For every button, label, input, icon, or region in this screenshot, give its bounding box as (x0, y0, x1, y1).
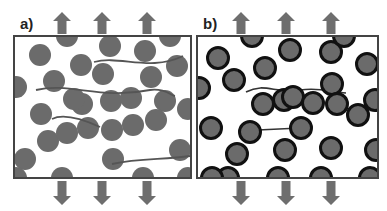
filler-particle-with-shell (283, 87, 304, 108)
filler-particle (140, 66, 162, 88)
arrow-up-icon (322, 12, 340, 34)
filler-particle (56, 122, 78, 144)
filler-particle (154, 90, 176, 112)
filler-particle-with-shell (255, 58, 276, 79)
filler-particle (122, 114, 144, 136)
filler-particle-with-shell (253, 94, 274, 115)
filler-particle (14, 148, 36, 170)
panel-a: a) (5, 12, 199, 205)
panel-b-arrows-down (232, 181, 340, 205)
panel-a-arrows-down (53, 181, 156, 205)
arrow-up-icon (93, 12, 111, 34)
arrow-down-icon (93, 181, 111, 205)
filler-particle-with-shell (275, 140, 296, 161)
filler-particle-with-shell (348, 105, 369, 126)
filler-particle-with-shell (365, 90, 386, 111)
arrow-down-icon (322, 181, 340, 205)
panel-b: b) (189, 12, 387, 205)
arrow-down-icon (277, 181, 295, 205)
arrow-up-icon (277, 12, 295, 34)
filler-particle (102, 148, 124, 170)
filler-particle-with-shell (208, 48, 229, 69)
arrow-up-icon (53, 12, 71, 34)
filler-particle-with-shell (322, 74, 343, 95)
filler-particle (92, 63, 114, 85)
filler-particle-with-shell (240, 122, 261, 143)
arrow-up-icon (232, 12, 250, 34)
arrow-down-icon (138, 181, 156, 205)
filler-particle (101, 119, 123, 141)
panel-a-particles (5, 25, 199, 189)
filler-particle (177, 98, 199, 120)
panel-b-particles-with-shell (189, 26, 387, 189)
filler-particle (120, 87, 142, 109)
filler-particle (30, 103, 52, 125)
filler-particle-with-shell (357, 54, 378, 75)
arrow-down-icon (232, 181, 250, 205)
arrow-down-icon (53, 181, 71, 205)
filler-particle-with-shell (201, 118, 222, 139)
filler-particle-with-shell (280, 40, 301, 61)
filler-particle-with-shell (366, 140, 387, 161)
diagram-canvas: a) b) (0, 0, 387, 211)
filler-particle-with-shell (303, 93, 324, 114)
filler-particle (70, 54, 92, 76)
filler-particle (145, 109, 167, 131)
filler-particle (37, 130, 59, 152)
filler-particle (63, 88, 85, 110)
panel-b-arrows-up (232, 12, 340, 34)
filler-particle (5, 76, 27, 98)
filler-particle-with-shell (321, 138, 342, 159)
filler-particle (29, 44, 51, 66)
panel-b-label: b) (203, 15, 217, 32)
filler-particle (134, 40, 156, 62)
filler-particle-with-shell (291, 118, 312, 139)
panel-a-label: a) (20, 15, 33, 32)
panel-a-arrows-up (53, 12, 156, 34)
filler-particle-with-shell (327, 94, 348, 115)
filler-particle-with-shell (224, 70, 245, 91)
filler-particle-with-shell (227, 144, 248, 165)
filler-particle (99, 35, 121, 57)
arrow-up-icon (138, 12, 156, 34)
